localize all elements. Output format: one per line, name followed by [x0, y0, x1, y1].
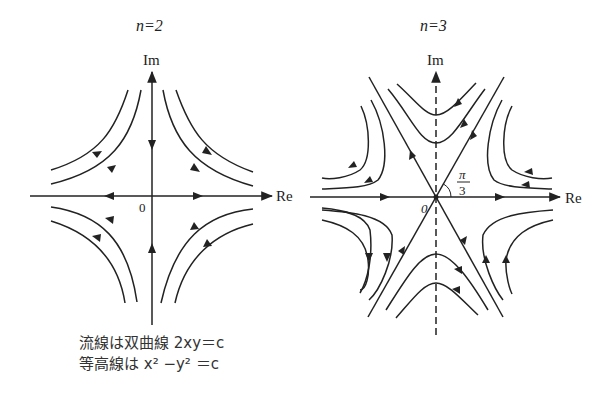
angle-arc [444, 184, 452, 197]
streamline [504, 106, 552, 179]
flow-arrow-icon [380, 193, 390, 201]
streamline [51, 90, 141, 184]
flow-arrow-icon [148, 140, 156, 150]
flow-arrow-icon [398, 246, 405, 255]
flow-arrow-icon [495, 193, 505, 201]
streamline [51, 221, 125, 303]
flow-arrow-icon [460, 236, 467, 245]
streamline [163, 90, 253, 186]
real-axis-label: Re [276, 188, 293, 204]
caption-contours: 等高線は x² −y² ＝c [79, 355, 219, 373]
real-axis-label: Re [565, 190, 582, 206]
streamline [175, 224, 253, 303]
flow-arrow-icon [193, 192, 203, 200]
flow-diagram: n=2 Re Im 0 流線は双曲線 2xy＝c [0, 0, 608, 397]
flow-arrow-icon [365, 253, 373, 262]
imaginary-axis-label: Im [143, 52, 160, 68]
streamline [161, 209, 253, 303]
flow-arrow-icon [92, 151, 102, 158]
flow-arrow-icon [482, 255, 490, 263]
streamline [322, 220, 369, 290]
streamline [396, 283, 478, 318]
flow-arrow-icon [524, 168, 533, 175]
caption-streamlines: 流線は双曲線 2xy＝c [79, 334, 224, 352]
streamline [176, 90, 253, 172]
streamline [322, 106, 368, 179]
flow-arrow-icon [104, 192, 114, 200]
flow-arrow-icon [92, 234, 101, 242]
flow-arrow-icon [190, 163, 200, 172]
streamline [51, 90, 128, 170]
flow-arrow-icon [502, 255, 510, 263]
panel-n3: n=3 Re Im 0 π 3 [310, 17, 582, 335]
streamline [322, 208, 371, 293]
angle-label-numerator: π [459, 167, 466, 182]
imaginary-axis-label: Im [427, 52, 444, 68]
streamline [51, 207, 137, 302]
panel-title-n2: n=2 [136, 17, 163, 34]
panel-n2: n=2 Re Im 0 流線は双曲線 2xy＝c [30, 17, 293, 373]
flow-arrow-icon [202, 146, 212, 155]
angle-label-denominator: 3 [459, 183, 466, 198]
streamline [506, 220, 553, 294]
origin-label: 0 [139, 200, 146, 215]
streamline [322, 100, 385, 189]
flow-arrow-icon [348, 161, 357, 168]
panel-title-n3: n=3 [420, 17, 447, 34]
flow-arrow-icon [364, 176, 373, 183]
flow-arrow-icon [105, 216, 114, 224]
streamline [488, 100, 552, 189]
flow-arrow-icon [148, 243, 156, 253]
flow-arrow-icon [107, 165, 116, 173]
flow-arrow-icon [190, 222, 199, 230]
flow-arrow-icon [452, 286, 460, 294]
